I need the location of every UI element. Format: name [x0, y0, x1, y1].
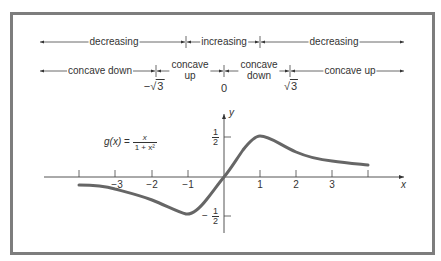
- x-axis-label: x: [401, 179, 406, 190]
- x-tick-label-neg2: −2: [146, 179, 157, 190]
- y-tick-sign-neg: −: [202, 210, 208, 221]
- y-axis-label: y: [229, 107, 234, 118]
- label-concave-up-right: concave up: [323, 65, 376, 76]
- x-tick-label-2: 2: [293, 179, 299, 190]
- label-increasing: increasing: [200, 36, 248, 47]
- x-tick-label-1: 1: [257, 179, 263, 190]
- x-tick-label-neg1: −1: [182, 179, 193, 190]
- point-neg-sqrt3: −√3: [144, 80, 165, 92]
- y-tick-label-neg-half: 1 2: [212, 207, 219, 226]
- label-concave-down-left: concave down: [67, 65, 133, 76]
- point-zero: 0: [221, 82, 227, 94]
- label-decreasing-left: decreasing: [89, 36, 140, 47]
- label-concave-up-middle: concave up: [169, 59, 210, 81]
- label-concave-down-middle: concave down: [238, 59, 279, 81]
- point-pos-sqrt3: √3: [284, 80, 298, 92]
- graph-axes: [44, 114, 404, 233]
- label-decreasing-right: decreasing: [309, 36, 360, 47]
- function-formula: g(x) = x 1 + x²: [104, 133, 157, 152]
- x-tick-label-3: 3: [329, 179, 335, 190]
- x-tick-label-neg3: −3: [111, 179, 122, 190]
- y-tick-label-half: 1 2: [212, 128, 219, 147]
- formula-fraction: x 1 + x²: [133, 133, 157, 152]
